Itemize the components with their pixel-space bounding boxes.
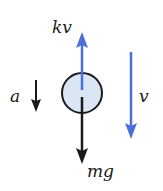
acceleration-label: a xyxy=(10,86,20,106)
velocity-label: v xyxy=(139,86,149,106)
free-body-diagram: kv mg a v xyxy=(0,0,163,191)
drag-force-label: kv xyxy=(52,17,72,37)
acceleration-arrow xyxy=(31,80,41,112)
velocity-arrow xyxy=(125,52,137,139)
weight-force-label: mg xyxy=(87,161,114,181)
